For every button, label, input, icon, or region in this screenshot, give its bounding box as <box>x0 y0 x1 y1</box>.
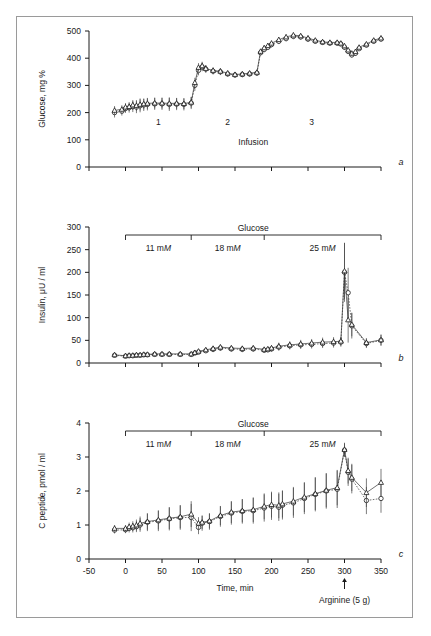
panel-a-glucose: 0100200300400500Glucose, mg %aInfusion12… <box>17 17 414 213</box>
infusion-phase-label: 3 <box>309 117 314 127</box>
bracket-title: Glucose <box>238 419 269 429</box>
y-tick-label: 50 <box>72 335 82 345</box>
series-triangles <box>112 243 383 358</box>
panel-c-cpeptide: 01234-50050100150200250300350C peptide, … <box>17 409 414 605</box>
panel-letter: a <box>398 157 403 167</box>
infusion-label: Infusion <box>238 137 268 147</box>
x-tick-label: 250 <box>301 566 315 576</box>
marker-open-triangle <box>192 80 197 85</box>
x-tick-label: 100 <box>191 566 205 576</box>
panel-a: 0100200300400500Glucose, mg %aInfusion12… <box>17 17 414 213</box>
infusion-phase-label: 1 <box>156 117 161 127</box>
y-tick-label: 500 <box>67 26 81 36</box>
bracket-segment-label: 18 mM <box>215 243 242 253</box>
marker-open-triangle <box>379 480 384 485</box>
marker-open-triangle <box>346 317 351 322</box>
x-tick-label: -50 <box>83 566 96 576</box>
infusion-phase-label: 2 <box>225 117 230 127</box>
y-tick-label: 2 <box>76 486 81 496</box>
y-tick-label: 250 <box>67 245 81 255</box>
y-tick-label: 300 <box>67 222 81 232</box>
x-tick-label: 50 <box>157 566 167 576</box>
panel-c: 01234-50050100150200250300350C peptide, … <box>17 409 414 605</box>
y-tick-label: 100 <box>67 313 81 323</box>
x-tick-label: 150 <box>228 566 242 576</box>
panel-b: 050100150200250300Insulin, μU / mlb11 mM… <box>17 213 414 409</box>
arginine-annotation: Arginine (5 g) <box>319 578 370 605</box>
bracket-segment-label: 25 mM <box>310 243 337 253</box>
x-tick-label: 300 <box>337 566 351 576</box>
y-tick-label: 3 <box>76 452 81 462</box>
y-axis-title: Glucose, mg % <box>37 70 47 128</box>
marker-open-triangle <box>112 526 117 531</box>
marker-open-triangle <box>189 512 194 517</box>
y-axis-title: Insulin, μU / ml <box>37 267 47 323</box>
marker-open-circle <box>346 291 350 295</box>
y-tick-label: 0 <box>76 162 81 172</box>
y-tick-label: 1 <box>76 520 81 530</box>
x-tick-label: 350 <box>374 566 388 576</box>
panel-letter: c <box>399 549 404 559</box>
series-triangles <box>112 443 383 532</box>
marker-open-triangle <box>349 475 354 480</box>
marker-open-triangle <box>335 485 340 490</box>
data-line <box>115 450 381 529</box>
panel-letter: b <box>398 353 403 363</box>
y-axis-title: C peptide, pmol / ml <box>37 453 47 529</box>
x-tick-label: 200 <box>264 566 278 576</box>
bracket-title: Glucose <box>238 223 269 233</box>
data-line <box>115 450 381 530</box>
annotation-label: Arginine (5 g) <box>319 595 370 605</box>
y-tick-label: 400 <box>67 53 81 63</box>
panel-b-insulin: 050100150200250300Insulin, μU / mlb11 mM… <box>17 213 414 409</box>
x-tick-label: 0 <box>123 566 128 576</box>
up-arrow-icon <box>342 578 347 582</box>
error-bars <box>115 443 381 532</box>
x-axis-title: Time, min <box>217 583 254 593</box>
bracket-segment-label: 11 mM <box>146 439 172 449</box>
y-tick-label: 200 <box>67 267 81 277</box>
marker-open-triangle <box>346 468 351 473</box>
y-tick-label: 150 <box>67 290 81 300</box>
data-markers <box>112 268 383 357</box>
y-tick-label: 0 <box>76 554 81 564</box>
y-tick-label: 4 <box>76 418 81 428</box>
bracket-segment-label: 25 mM <box>310 439 337 449</box>
glucose-bracket: 11 mM18 mM25 mMGlucose <box>126 223 382 253</box>
bracket-segment-label: 18 mM <box>215 439 242 449</box>
bracket-segment-label: 11 mM <box>146 243 172 253</box>
figure-frame: 0100200300400500Glucose, mg %aInfusion12… <box>16 16 413 618</box>
marker-open-circle <box>379 496 383 500</box>
marker-open-triangle <box>269 502 274 507</box>
glucose-bracket: 11 mM18 mM25 mMGlucose <box>126 419 382 449</box>
y-tick-label: 100 <box>67 135 81 145</box>
y-tick-label: 200 <box>67 108 81 118</box>
y-tick-label: 300 <box>67 80 81 90</box>
y-tick-label: 0 <box>76 358 81 368</box>
axes: 0100200300400500 <box>67 26 381 172</box>
